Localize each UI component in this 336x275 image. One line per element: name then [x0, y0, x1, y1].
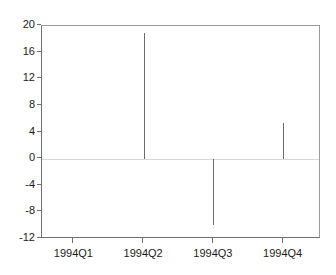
- y-tick-label: 8: [29, 97, 35, 112]
- y-tick-mark: [37, 77, 41, 78]
- y-tick-label: 4: [29, 124, 35, 139]
- y-tick-mark: [37, 157, 41, 158]
- chart-container: 201612840-4-8-12 1994Q11994Q21994Q31994Q…: [0, 0, 336, 275]
- x-tick-mark: [212, 238, 213, 243]
- zero-baseline: [42, 159, 319, 160]
- y-tick-label: 16: [23, 44, 35, 59]
- y-tick-mark: [37, 24, 41, 25]
- y-tick-mark: [37, 184, 41, 185]
- x-tick-label: 1994Q4: [263, 246, 302, 260]
- x-axis: 1994Q11994Q21994Q31994Q4: [0, 238, 336, 275]
- y-tick-mark: [37, 51, 41, 52]
- plot-area: [41, 25, 320, 238]
- y-tick-mark: [37, 210, 41, 211]
- x-tick-label: 1994Q2: [124, 246, 163, 260]
- y-tick-mark: [37, 104, 41, 105]
- data-spike: [144, 33, 145, 159]
- y-tick-label: -8: [25, 203, 35, 218]
- y-tick-label: 20: [23, 17, 35, 32]
- x-tick-mark: [282, 238, 283, 243]
- y-tick-mark: [37, 131, 41, 132]
- x-tick-mark: [72, 238, 73, 243]
- y-tick-label: -4: [25, 177, 35, 192]
- data-spike: [213, 159, 214, 225]
- y-tick-label: 12: [23, 70, 35, 85]
- data-spike: [283, 123, 284, 159]
- x-tick-label: 1994Q1: [54, 246, 93, 260]
- x-tick-mark: [142, 238, 143, 243]
- y-axis: 201612840-4-8-12: [0, 0, 41, 275]
- y-tick-label: 0: [29, 150, 35, 165]
- x-tick-label: 1994Q3: [193, 246, 232, 260]
